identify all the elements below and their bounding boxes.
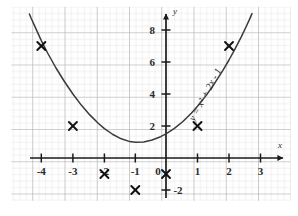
x-tick-label-2: 2 xyxy=(226,165,232,177)
x-tick-label-1: 1 xyxy=(195,165,201,177)
y-axis-label: y xyxy=(172,6,177,16)
coordinate-plane: -4 -3 -2 -1 1 2 3 8 6 4 2 -2 0 x y xyxy=(0,0,298,216)
x-tick-label-minus1: -1 xyxy=(131,165,140,177)
x-tick-label-minus3: -3 xyxy=(68,165,78,177)
x-tick-label-3: 3 xyxy=(258,165,264,177)
y-tick-label-2: 2 xyxy=(150,120,156,132)
y-tick-label-4: 4 xyxy=(150,88,156,100)
graph-figure: -4 -3 -2 -1 1 2 3 8 6 4 2 -2 0 x y xyxy=(0,0,298,216)
origin-label: 0 xyxy=(155,165,161,177)
y-tick-label-6: 6 xyxy=(150,56,156,68)
x-tick-label-minus4: -4 xyxy=(37,165,47,177)
y-tick-label-minus2: -2 xyxy=(173,184,183,196)
x-axis-label: x xyxy=(277,140,282,150)
y-tick-label-8: 8 xyxy=(150,24,156,36)
